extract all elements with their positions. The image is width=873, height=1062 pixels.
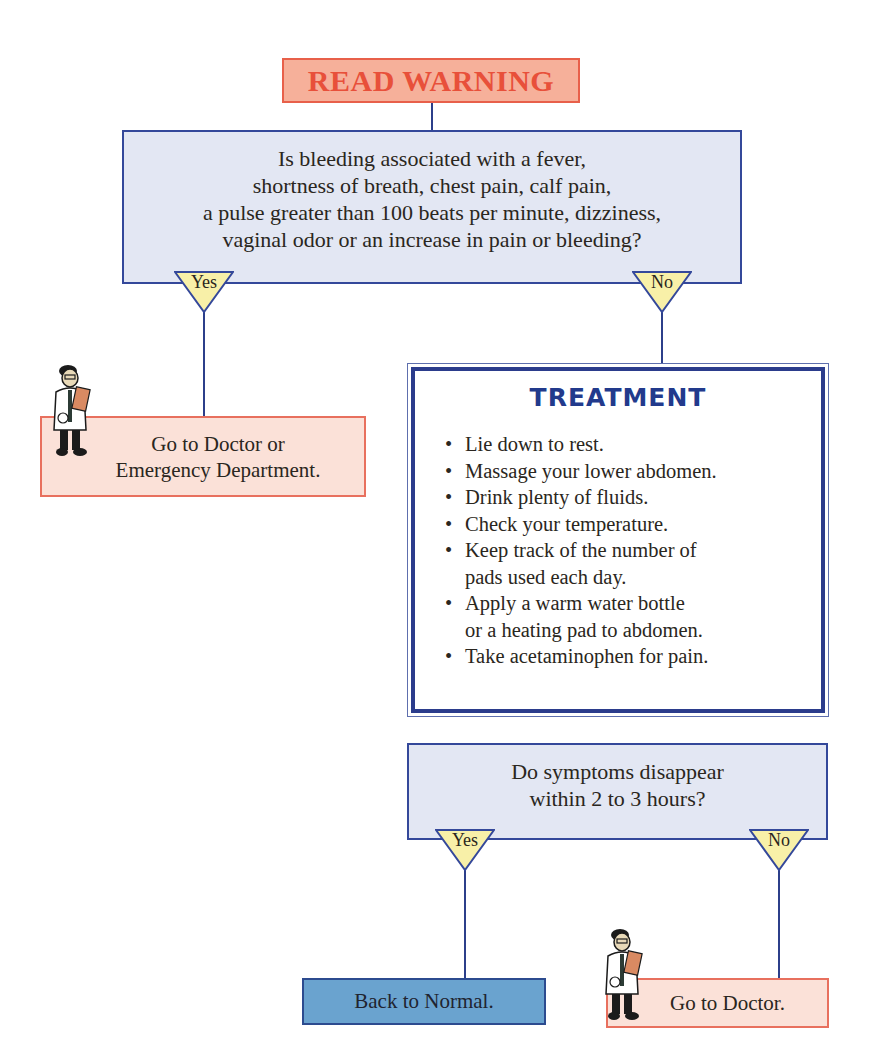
treatment-item-text: pads used each day. bbox=[465, 566, 626, 588]
treatment-item-text: or a heating pad to abdomen. bbox=[465, 619, 703, 641]
question2-no-label: No bbox=[749, 830, 809, 851]
question2-box: Do symptoms disappear within 2 to 3 hour… bbox=[407, 743, 828, 840]
treatment-item: •Take acetaminophen for pain. bbox=[445, 643, 717, 670]
bullet-icon: • bbox=[445, 590, 452, 617]
treatment-box: TREATMENT •Lie down to rest. •Massage yo… bbox=[407, 363, 829, 717]
question1-no-label: No bbox=[632, 272, 692, 293]
outcome-doctor-label: Go to Doctor. bbox=[670, 990, 785, 1016]
treatment-item: •Lie down to rest. bbox=[445, 431, 717, 458]
treatment-item-text: Massage your lower abdomen. bbox=[465, 460, 717, 482]
doctor-icon bbox=[46, 362, 94, 458]
connector-warning-to-question1 bbox=[431, 103, 433, 131]
question2-no-branch: No bbox=[749, 829, 809, 871]
treatment-item-text: Keep track of the number of bbox=[465, 539, 697, 561]
bullet-icon: • bbox=[445, 511, 452, 538]
connector-q2-no-to-doctor bbox=[778, 868, 780, 979]
treatment-item: •Drink plenty of fluids. bbox=[445, 484, 717, 511]
question1-box: Is bleeding associated with a fever, sho… bbox=[122, 130, 742, 284]
treatment-item: •Keep track of the number ofpads used ea… bbox=[445, 537, 717, 590]
connector-q1-yes-to-er bbox=[203, 310, 205, 417]
question1-line: a pulse greater than 100 beats per minut… bbox=[203, 199, 661, 226]
question1-line: vaginal odor or an increase in pain or b… bbox=[222, 226, 641, 253]
doctor-icon bbox=[598, 926, 646, 1022]
question1-line: Is bleeding associated with a fever, bbox=[278, 145, 586, 172]
outcome-er-line: Go to Doctor or bbox=[151, 431, 285, 457]
question1-no-branch: No bbox=[632, 271, 692, 313]
question2-line: Do symptoms disappear bbox=[511, 758, 724, 785]
bullet-icon: • bbox=[445, 458, 452, 485]
read-warning-label: READ WARNING bbox=[308, 64, 554, 98]
question2-yes-label: Yes bbox=[435, 830, 495, 851]
question1-yes-branch: Yes bbox=[174, 271, 234, 313]
question1-line: shortness of breath, chest pain, calf pa… bbox=[253, 172, 612, 199]
treatment-item-text: Drink plenty of fluids. bbox=[465, 486, 648, 508]
connector-q2-yes-to-normal bbox=[464, 868, 466, 979]
treatment-item-text: Check your temperature. bbox=[465, 513, 668, 535]
outcome-back-to-normal-box: Back to Normal. bbox=[302, 978, 546, 1025]
connector-q1-no-to-treatment bbox=[661, 310, 663, 364]
bullet-icon: • bbox=[445, 643, 452, 670]
treatment-item-text: Lie down to rest. bbox=[465, 433, 604, 455]
treatment-item: •Check your temperature. bbox=[445, 511, 717, 538]
question2-yes-branch: Yes bbox=[435, 829, 495, 871]
outcome-normal-label: Back to Normal. bbox=[354, 989, 493, 1014]
treatment-item-text: Apply a warm water bottle bbox=[465, 592, 685, 614]
treatment-item: •Massage your lower abdomen. bbox=[445, 458, 717, 485]
bullet-icon: • bbox=[445, 431, 452, 458]
bullet-icon: • bbox=[445, 537, 452, 564]
treatment-item-text: Take acetaminophen for pain. bbox=[465, 645, 708, 667]
treatment-title: TREATMENT bbox=[415, 383, 821, 412]
question2-line: within 2 to 3 hours? bbox=[530, 785, 706, 812]
outcome-er-line: Emergency Department. bbox=[116, 457, 321, 483]
treatment-item: •Apply a warm water bottleor a heating p… bbox=[445, 590, 717, 643]
read-warning-box: READ WARNING bbox=[282, 58, 580, 103]
question1-yes-label: Yes bbox=[174, 272, 234, 293]
treatment-list: •Lie down to rest. •Massage your lower a… bbox=[445, 431, 717, 670]
bullet-icon: • bbox=[445, 484, 452, 511]
